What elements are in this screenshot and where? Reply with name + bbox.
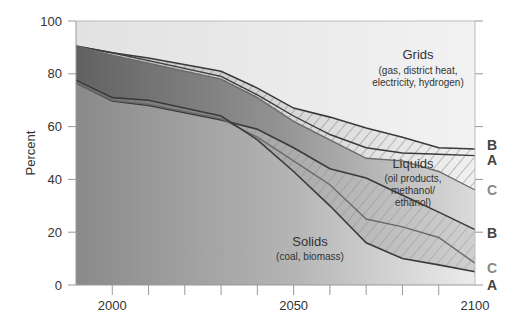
region-sublabel-solids: (coal, biomass) [276,251,344,262]
x-tick-label: 2100 [461,298,490,313]
scenario-label-b: B [487,137,497,153]
region-sublabel-liquids: ethanol) [395,197,431,208]
scenario-label-c: C [487,260,497,276]
y-axis-title: Percent [23,130,38,175]
stacked-area-chart: 020406080100200020502100 PercentGrids(ga… [0,0,518,328]
y-tick-label: 0 [55,278,62,293]
region-label-liquids: Liquids [392,156,434,171]
scenario-label-b: B [487,225,497,241]
y-tick-label: 40 [48,172,62,187]
y-tick-label: 80 [48,66,62,81]
region-label-grids: Grids [402,47,434,62]
scenario-label-a: A [487,152,497,168]
region-sublabel-grids: (gas, district heat, [379,65,458,76]
y-tick-label: 100 [40,14,62,29]
region-label-solids: Solids [292,234,328,249]
x-tick-label: 2000 [98,298,127,313]
region-sublabel-grids: electricity, hydrogen) [372,77,464,88]
scenario-label-c: C [487,182,497,198]
scenario-label-a: A [487,277,497,293]
x-tick-label: 2050 [279,298,308,313]
region-sublabel-liquids: methanol/ [391,185,435,196]
region-sublabel-liquids: (oil products, [384,173,441,184]
y-tick-label: 60 [48,119,62,134]
y-tick-label: 20 [48,225,62,240]
